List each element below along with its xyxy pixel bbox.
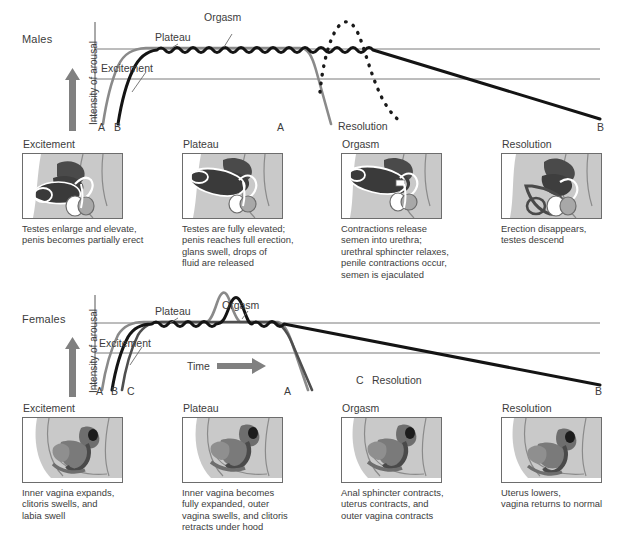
male-panel-plateau-caption: Testes are fully elevated; penis reaches… [182, 223, 332, 269]
female-curve-a-end-label: A [284, 385, 291, 397]
female-excitement-anatomy [22, 417, 123, 483]
female-panel-excitement-title: Excitement [23, 402, 182, 414]
male-response-graph: Males Intensity of arousal Platea [0, 0, 631, 135]
male-panel-orgasm-title: Orgasm [342, 138, 501, 150]
male-panel-plateau: Plateau Testes are fully eleva [182, 138, 342, 269]
male-panel-resolution-title: Resolution [502, 138, 631, 150]
female-panel-excitement: Excitement Inner vagina expands, clitori… [22, 402, 182, 521]
female-response-graph: Females Intensity of arousal [0, 285, 631, 400]
male-excitement-label: Excitement [101, 62, 153, 74]
female-panel-resolution-title: Resolution [502, 402, 631, 414]
female-panel-resolution-caption: Uterus lowers, vagina returns to normal [501, 487, 631, 510]
female-resolution-label: Resolution [372, 374, 422, 386]
male-panel-plateau-title: Plateau [183, 138, 342, 150]
male-curve-a-end-label: A [277, 121, 284, 133]
female-panel-orgasm: Orgasm Anal sphincter contracts, uterus … [341, 402, 501, 521]
female-excitement-label: Excitement [99, 337, 151, 349]
male-panel-excitement: Excitement Testes enlarge and [22, 138, 182, 246]
male-intensity-arrow-icon [65, 68, 80, 131]
female-intensity-arrow-icon [65, 337, 80, 397]
male-resolution-label: Resolution [338, 120, 388, 132]
male-panel-orgasm: Orgasm Contractions [341, 138, 501, 280]
female-orgasm-label: Orgasm [222, 299, 260, 311]
male-plateau-anatomy [182, 153, 283, 219]
female-plateau-anatomy [182, 417, 283, 483]
male-resolution-anatomy [501, 153, 602, 219]
male-panel-excitement-title: Excitement [23, 138, 182, 150]
female-y-axis-label: Intensity of arousal [88, 309, 99, 393]
female-curve-c-start-label: C [127, 385, 135, 397]
male-panel-orgasm-caption: Contractions release semen into urethra;… [341, 223, 491, 280]
male-panel-resolution-caption: Erection disappears, testes descend [501, 223, 631, 246]
female-curve-c-end-label: C [356, 374, 364, 386]
male-curve-b-end-label: B [597, 121, 604, 133]
male-row-label: Males [22, 33, 52, 45]
male-curve-b-start-label: B [114, 121, 121, 133]
male-orgasm-label: Orgasm [204, 11, 242, 23]
female-panel-plateau: Plateau Inner vagina becomes fully expan… [182, 402, 342, 533]
female-curve-b-start-label: B [111, 385, 118, 397]
female-panel-orgasm-title: Orgasm [342, 402, 501, 414]
male-panel-row: Excitement Testes enlarge and [0, 138, 631, 283]
male-excitement-anatomy [22, 153, 123, 219]
female-row-label: Females [22, 313, 66, 325]
male-plateau-label: Plateau [155, 31, 191, 43]
female-panel-row: Excitement Inner vagina expands, clitori… [0, 402, 631, 552]
male-y-axis-label: Intensity of arousal [88, 41, 99, 125]
female-panel-plateau-caption: Inner vagina becomes fully expanded, out… [182, 487, 332, 533]
female-panel-resolution: Resolution Uterus lowers, vagina returns [501, 402, 631, 510]
time-arrow-icon [217, 358, 266, 374]
female-plateau-label: Plateau [155, 305, 191, 317]
female-curve-b-end-label: B [595, 385, 602, 397]
sexual-response-cycle-figure: Males Intensity of arousal Platea [0, 0, 631, 554]
female-panel-orgasm-caption: Anal sphincter contracts, uterus contrac… [341, 487, 491, 521]
male-curve-a-start-label: A [98, 121, 105, 133]
male-orgasm-anatomy [341, 153, 442, 219]
female-resolution-anatomy [501, 417, 602, 483]
female-time-axis-label: Time [187, 360, 210, 372]
female-panel-plateau-title: Plateau [183, 402, 342, 414]
female-panel-excitement-caption: Inner vagina expands, clitoris swells, a… [22, 487, 172, 521]
female-orgasm-anatomy [341, 417, 442, 483]
male-panel-excitement-caption: Testes enlarge and elevate, penis become… [22, 223, 172, 246]
male-panel-resolution: Resolution Erection disappears, testes d… [501, 138, 631, 246]
